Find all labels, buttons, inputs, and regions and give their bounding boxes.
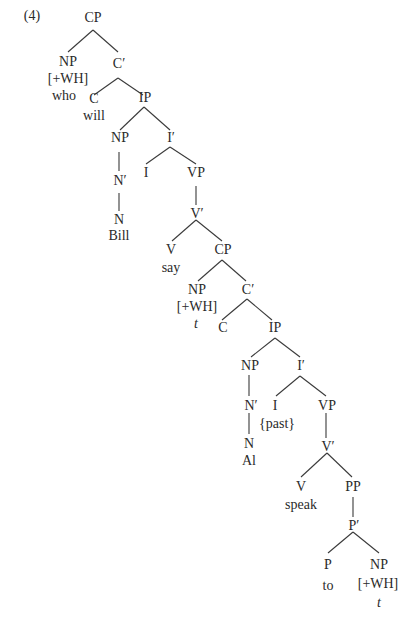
node-p: P [324, 557, 332, 573]
feature-past: {past} [259, 416, 295, 432]
node-np-wh: NP [59, 54, 77, 70]
node-i-bar: I′ [167, 130, 175, 146]
node-n-2: N [244, 436, 254, 452]
feature-wh-3: [+WH] [358, 576, 399, 592]
node-np-2: NP [241, 358, 259, 374]
word-speak: speak [285, 497, 317, 513]
trace-t-2: t [377, 595, 381, 611]
word-say: say [162, 260, 181, 276]
word-who: who [52, 88, 76, 104]
node-c-2: C [218, 320, 227, 336]
node-ip: IP [139, 90, 151, 106]
node-np-3: NP [370, 557, 388, 573]
word-will: will [83, 108, 105, 124]
word-al: Al [242, 453, 256, 469]
node-ip-2: IP [269, 320, 281, 336]
node-pp: PP [345, 479, 361, 495]
node-i-bar-2: I′ [297, 358, 305, 374]
feature-wh-2: [+WH] [177, 299, 218, 315]
example-number: (4) [24, 8, 40, 24]
node-cp: CP [84, 10, 101, 26]
node-np: NP [111, 130, 129, 146]
node-n: N [114, 212, 124, 228]
node-v: V [166, 242, 176, 258]
node-v-bar-2: V′ [321, 439, 334, 455]
node-vp-2: VP [318, 398, 336, 414]
node-c-bar-2: C′ [242, 282, 254, 298]
node-v-2: V [296, 479, 306, 495]
node-cp-embedded: CP [214, 242, 231, 258]
node-i: I [144, 165, 149, 181]
node-vp: VP [187, 165, 205, 181]
node-c: C [89, 91, 98, 107]
node-p-bar: P′ [349, 518, 360, 534]
node-np-trace: NP [188, 282, 206, 298]
word-to: to [323, 578, 334, 594]
node-c-bar: C′ [113, 56, 125, 72]
node-n-bar-2: N′ [244, 398, 257, 414]
feature-wh: [+WH] [48, 71, 89, 87]
node-n-bar: N′ [113, 173, 126, 189]
node-v-bar: V′ [190, 206, 203, 222]
word-bill: Bill [108, 228, 129, 244]
trace-t: t [194, 316, 198, 332]
node-i-2: I [273, 398, 278, 414]
